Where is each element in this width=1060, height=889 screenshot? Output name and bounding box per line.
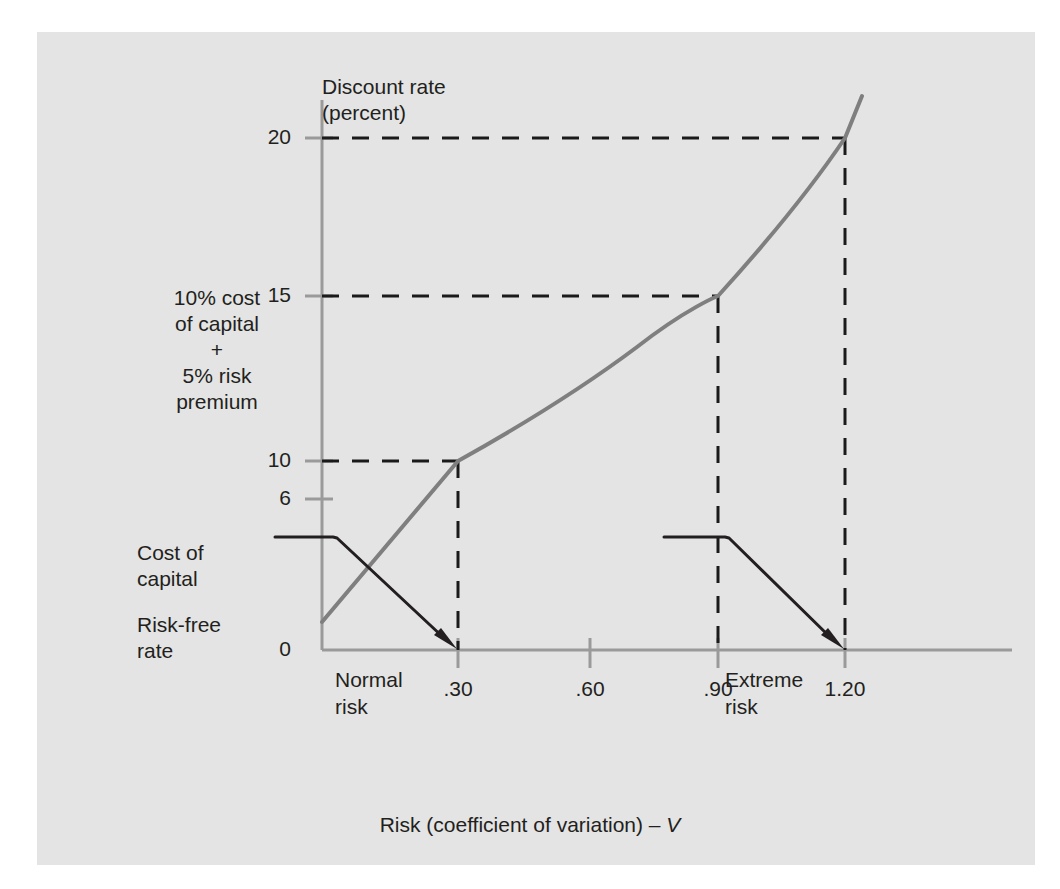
callout-normal-risk: Normal risk — [335, 666, 403, 720]
x-axis-title-variable: V — [666, 813, 680, 836]
x-tick-label-030: .30 — [418, 677, 498, 701]
figure-root: Discount rate (percent) 20 15 10 6 0 .30… — [0, 0, 1060, 889]
x-tick-label-120: 1.20 — [805, 677, 885, 701]
x-axis-title: Risk (coefficient of variation) – V — [0, 812, 1060, 838]
x-tick-label-060: .60 — [550, 677, 630, 701]
annotation-cost-of-capital: Cost of capital — [137, 540, 297, 592]
y-tick-label-20: 20 — [225, 125, 291, 149]
callout-extreme-risk: Extreme risk — [725, 666, 803, 720]
normal-risk-arrow-line — [275, 537, 445, 639]
chart-panel: Discount rate (percent) 20 15 10 6 0 .30… — [37, 32, 1035, 865]
x-axis-title-main: Risk (coefficient of variation) – — [380, 813, 667, 836]
discount-rate-curve — [322, 96, 862, 622]
y-axis-title: Discount rate (percent) — [322, 74, 446, 126]
annotation-risk-free-rate: Risk-free rate — [137, 612, 297, 664]
extreme-risk-arrow-line — [664, 537, 832, 639]
annotation-risk-premium: 10% cost of capital + 5% risk premium — [137, 285, 297, 415]
chart-plot-area — [37, 32, 1035, 865]
y-tick-label-10: 10 — [225, 448, 291, 472]
y-tick-label-6: 6 — [225, 486, 291, 510]
